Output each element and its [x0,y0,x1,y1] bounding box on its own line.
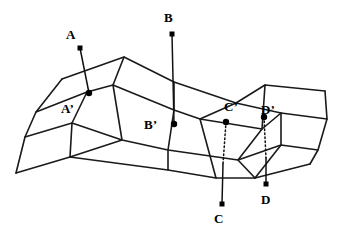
marker-a-prime [86,90,92,96]
connector-d-dotted [264,117,266,158]
mesh-col-a [70,57,124,157]
point-label-b: B [164,11,173,24]
marker-b-prime [171,121,177,127]
point-label-d: D [261,193,270,206]
mesh-col-c [200,103,236,178]
marker-d [264,182,269,187]
point-label-a-prime: A’ [61,102,74,115]
connector-c-solid [222,164,223,204]
marker-b [170,32,175,37]
mesh-row-top [62,57,325,103]
point-label-d-prime: D’ [261,103,275,116]
geometry-figure: A B C D A’ B’ C’ D’ [0,0,338,236]
mesh-surface [16,57,327,178]
mesh-col-left-edge [16,79,62,173]
marker-c [220,202,225,207]
figure-canvas [0,0,338,236]
marker-a [78,46,83,51]
mesh-col-right-edge [310,91,327,164]
marker-c-prime [223,119,229,125]
point-label-a: A [66,28,75,41]
point-label-c: C [214,212,223,225]
point-label-b-prime: B’ [144,118,157,131]
projected-point-markers [86,90,267,127]
connector-b [172,34,174,124]
point-label-c-prime: C’ [224,100,238,113]
